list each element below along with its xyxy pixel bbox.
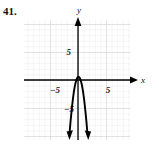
x-tick-label-positive-5: 5 bbox=[106, 85, 111, 95]
parabola-figure: x y −5 5 5 −5 bbox=[0, 0, 159, 151]
x-tick-label-negative-5: −5 bbox=[50, 85, 60, 95]
x-axis-arrowhead bbox=[130, 77, 138, 84]
y-axis-label: y bbox=[76, 5, 81, 15]
x-axis-label: x bbox=[140, 75, 145, 85]
graph-svg: x y −5 5 5 −5 bbox=[0, 0, 159, 151]
y-tick-label-positive-5: 5 bbox=[67, 47, 72, 57]
